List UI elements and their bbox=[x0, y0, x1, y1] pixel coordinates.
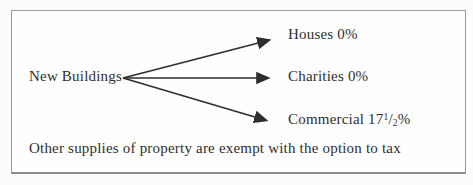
commercial-label-prefix: Commercial 17 bbox=[288, 111, 384, 127]
arrow-to-houses bbox=[123, 41, 268, 79]
figure-canvas: New Buildings Houses 0% Charities 0% Com… bbox=[0, 0, 473, 185]
arrow-to-commercial bbox=[123, 78, 265, 120]
commercial-label-suffix: % bbox=[398, 111, 411, 127]
diagram-frame: New Buildings Houses 0% Charities 0% Com… bbox=[11, 10, 466, 174]
footnote-text: Other supplies of property are exempt wi… bbox=[29, 139, 401, 157]
branch-label-charities: Charities 0% bbox=[288, 67, 368, 85]
root-node-label: New Buildings bbox=[29, 67, 122, 85]
branch-label-houses: Houses 0% bbox=[288, 25, 358, 43]
branch-label-commercial: Commercial 171/2% bbox=[288, 110, 410, 128]
